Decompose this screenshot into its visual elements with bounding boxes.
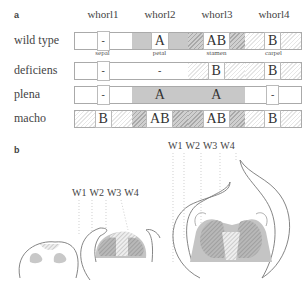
whorl3-header: whorl3 [187, 8, 247, 20]
cell-whorl2: A [132, 87, 189, 103]
gene-value: - [97, 85, 110, 105]
cell-whorl4: B [245, 63, 302, 79]
cell-whorl2: - [132, 63, 189, 79]
late-bud [173, 160, 290, 278]
gene-value: AB [146, 110, 173, 128]
gene-value: AB [203, 110, 230, 128]
gene-value: B [208, 62, 225, 80]
organ-label-sepal: sepal [74, 49, 131, 57]
gene-expression-bar-deficiens: - - B B [74, 62, 302, 80]
gene-value: B [264, 32, 281, 50]
panel-a-label: a [14, 10, 19, 20]
early-bud [19, 242, 78, 278]
cell-whorl3: A [188, 87, 245, 103]
cell-whorl4: B [245, 111, 302, 127]
cell-whorl1: - [75, 33, 132, 49]
cell-whorl3: AB [188, 33, 245, 49]
row-label-macho: macho [14, 111, 46, 126]
gene-value: - [266, 85, 279, 105]
gene-expression-bar-wild-type: - A AB B [74, 32, 302, 50]
whorl1-header: whorl1 [73, 8, 133, 20]
guide-lines-mid [79, 200, 128, 235]
cell-whorl2: A [132, 33, 189, 49]
organ-label-carpel: carpel [245, 49, 302, 57]
gene-expression-bar-plena: - A A - [74, 86, 302, 104]
cell-whorl1: - [75, 63, 132, 79]
gene-value: A [207, 86, 225, 104]
cell-whorl3: AB [188, 111, 245, 127]
gene-value: - [97, 61, 110, 81]
cell-whorl4: - [245, 87, 302, 103]
gene-expression-bar-macho: B AB AB B [74, 110, 302, 128]
gene-value: A [151, 32, 169, 50]
row-label-deficiens: deficiens [14, 63, 57, 78]
gene-value: B [264, 62, 281, 80]
cell-whorl4: B [245, 33, 302, 49]
cell-whorl1: B [75, 111, 132, 127]
cell-whorl2: AB [132, 111, 189, 127]
gene-value: - [97, 31, 110, 51]
organ-label-petal: petal [131, 49, 188, 57]
cell-whorl1: - [75, 87, 132, 103]
organ-label-stamen: stamen [188, 49, 245, 57]
whorl4-header: whorl4 [244, 8, 304, 20]
gene-value: AB [203, 32, 230, 50]
whorl2-header: whorl2 [130, 8, 190, 20]
gene-value: B [95, 110, 112, 128]
gene-value: A [151, 86, 169, 104]
floral-development-diagram [0, 150, 306, 292]
row-label-plena: plena [14, 87, 40, 102]
cell-whorl3: B [188, 63, 245, 79]
gene-value: B [264, 110, 281, 128]
gene-value: - [153, 61, 166, 81]
intermediate-bud [81, 228, 160, 280]
row-label-wild-type: wild type [14, 33, 59, 48]
